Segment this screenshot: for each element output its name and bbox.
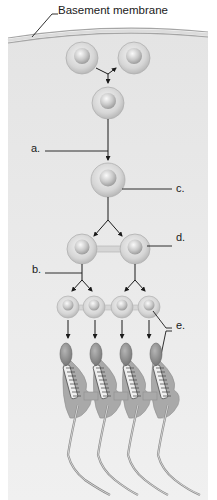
basement-membrane-label: Basement membrane	[58, 5, 168, 17]
label-c: c.	[176, 183, 185, 194]
diagram-canvas	[0, 0, 217, 500]
spermatogenesis-diagram: Basement membrane a. c. d. b. e.	[0, 0, 217, 500]
cell-row-3	[91, 163, 125, 197]
label-a: a.	[31, 143, 40, 154]
label-d: d.	[176, 232, 185, 243]
cell-row-2	[92, 87, 124, 119]
label-b: b.	[32, 264, 41, 275]
label-e: e.	[176, 320, 185, 331]
